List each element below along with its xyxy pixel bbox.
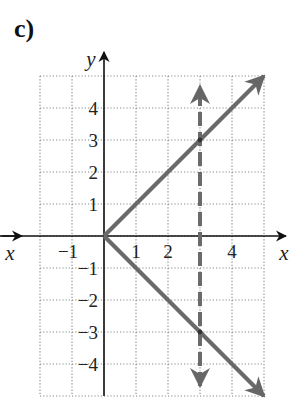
y-tick-label: 4: [89, 98, 99, 119]
y-axis-label: y: [84, 47, 96, 71]
x-tick-label: 2: [163, 241, 173, 262]
y-tick-label: 2: [89, 162, 99, 183]
chart: −11244321−1−2−3−4xxy: [0, 0, 306, 412]
series-line-1: [104, 236, 264, 396]
y-tick-label: −4: [78, 354, 99, 375]
axes: [0, 52, 286, 396]
y-tick-label: −1: [78, 258, 98, 279]
intersection-point: [198, 138, 203, 143]
x-tick-label: 1: [131, 241, 141, 262]
y-tick-label: 3: [89, 130, 99, 151]
intersection-point: [198, 330, 203, 335]
series-line-0: [104, 76, 264, 236]
x-tick-label: 4: [227, 241, 237, 262]
x-tick-label: −1: [58, 241, 78, 262]
y-tick-label: −2: [78, 290, 98, 311]
y-tick-label: 1: [89, 194, 99, 215]
x-axis-label-left: x: [4, 241, 15, 265]
y-tick-label: −3: [78, 322, 98, 343]
x-axis-label-right: x: [278, 241, 289, 265]
